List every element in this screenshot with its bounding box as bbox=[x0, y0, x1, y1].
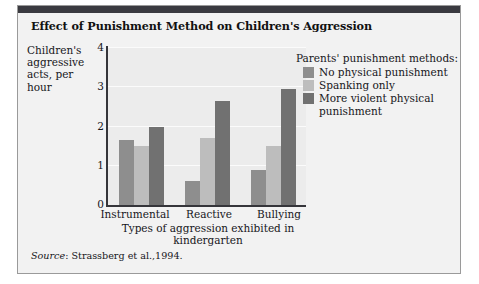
y-axis-line bbox=[106, 46, 108, 207]
legend: Parents' punishment methods: No physical… bbox=[296, 52, 456, 118]
legend-swatch bbox=[303, 93, 314, 104]
y-tick-label: 1 bbox=[92, 159, 104, 171]
x-tick-label: Reactive bbox=[186, 208, 232, 220]
y-axis-ticks: 01234 bbox=[88, 0, 104, 284]
bar bbox=[149, 127, 164, 206]
top-rule-divider bbox=[18, 6, 460, 13]
legend-entry: No physical punishment bbox=[303, 66, 456, 78]
x-axis-line bbox=[106, 205, 306, 207]
source-text: : Strassberg et al.,1994. bbox=[65, 250, 182, 261]
x-tick-label: Instrumental bbox=[100, 208, 169, 220]
legend-label: Spanking only bbox=[319, 79, 395, 91]
bar bbox=[200, 138, 215, 205]
bar bbox=[215, 101, 230, 205]
x-tick-label: Bullying bbox=[257, 208, 301, 220]
legend-swatch bbox=[303, 80, 314, 91]
bar bbox=[281, 89, 296, 205]
x-axis-label: Types of aggression exhibited in kinderg… bbox=[108, 222, 308, 247]
bar bbox=[185, 181, 200, 205]
legend-label: More violent physical punishment bbox=[319, 92, 456, 116]
y-tick-label: 4 bbox=[92, 41, 104, 53]
legend-swatch bbox=[303, 67, 314, 78]
bar bbox=[134, 146, 149, 205]
chart-title: Effect of Punishment Method on Children'… bbox=[31, 19, 372, 33]
legend-title: Parents' punishment methods: bbox=[296, 52, 456, 64]
bar bbox=[266, 146, 281, 205]
bar bbox=[119, 140, 134, 205]
legend-entries: No physical punishmentSpanking onlyMore … bbox=[296, 66, 456, 117]
gridline bbox=[108, 86, 306, 87]
plot-area bbox=[108, 48, 306, 205]
legend-entry: More violent physical punishment bbox=[303, 92, 456, 116]
source-prefix: Source bbox=[31, 250, 65, 261]
legend-entry: Spanking only bbox=[303, 79, 456, 91]
y-tick-label: 2 bbox=[92, 120, 104, 132]
y-tick-label: 3 bbox=[92, 80, 104, 92]
gridline bbox=[108, 126, 306, 127]
figure-container: Effect of Punishment Method on Children'… bbox=[0, 0, 479, 284]
legend-label: No physical punishment bbox=[319, 66, 448, 78]
source-note: Source: Strassberg et al.,1994. bbox=[31, 250, 183, 261]
bar bbox=[251, 170, 266, 205]
gridline bbox=[108, 47, 306, 48]
